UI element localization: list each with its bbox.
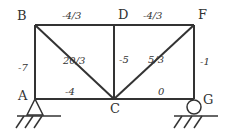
force-DF: -4/3 bbox=[143, 10, 162, 21]
force-FG: -1 bbox=[200, 56, 210, 67]
node-label-F: F bbox=[198, 7, 207, 22]
force-BC: 20/3 bbox=[62, 55, 85, 66]
force-BD: -4/3 bbox=[62, 10, 81, 21]
node-label-C: C bbox=[110, 101, 120, 116]
force-DC: -5 bbox=[119, 54, 129, 65]
force-CG: 0 bbox=[158, 86, 165, 97]
force-AB: -7 bbox=[18, 62, 28, 73]
node-label-G: G bbox=[203, 92, 213, 107]
pin-support-icon bbox=[16, 99, 61, 128]
truss-diagram: B D F A C G -4/3 -4/3 -7 20/3 -5 5/3 -1 … bbox=[0, 0, 227, 137]
node-label-B: B bbox=[17, 8, 27, 23]
node-label-D: D bbox=[118, 7, 128, 22]
force-AC: -4 bbox=[65, 86, 75, 97]
node-label-A: A bbox=[17, 88, 28, 103]
force-FC: 5/3 bbox=[148, 54, 164, 65]
